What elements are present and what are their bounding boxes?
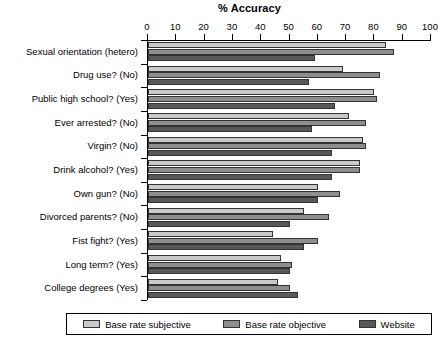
bar-0 — [148, 231, 273, 237]
chart-row: Drink alcohol? (Yes) — [0, 158, 439, 182]
bar-2 — [148, 244, 304, 250]
bar-1 — [148, 167, 360, 173]
bar-1 — [148, 191, 340, 197]
chart-row: Virgin? (No) — [0, 135, 439, 159]
bar-2 — [148, 221, 290, 227]
category-label: College degrees (Yes) — [0, 282, 138, 293]
accuracy-bar-chart: % Accuracy 0102030405060708090100 Sexual… — [0, 0, 439, 347]
x-tick-label: 80 — [368, 21, 379, 32]
chart-row: Long term? (Yes) — [0, 253, 439, 277]
bar-2 — [148, 150, 332, 156]
bar-1 — [148, 96, 377, 102]
bar-1 — [148, 238, 318, 244]
x-tick-label: 0 — [144, 21, 149, 32]
chart-legend: Base rate subjectiveBase rate objectiveW… — [66, 313, 432, 335]
legend-label: Base rate objective — [245, 319, 326, 330]
category-label: Divorced parents? (No) — [0, 211, 138, 222]
bar-2 — [148, 268, 290, 274]
x-tick-label: 60 — [312, 21, 323, 32]
bar-0 — [148, 113, 349, 119]
y-tick — [141, 300, 147, 301]
bar-0 — [148, 255, 281, 261]
bar-0 — [148, 66, 343, 72]
chart-row: Own gun? (No) — [0, 182, 439, 206]
chart-title: % Accuracy — [0, 2, 439, 14]
category-label: Sexual orientation (hetero) — [0, 46, 138, 57]
legend-swatch-icon — [359, 320, 376, 328]
bar-2 — [148, 103, 335, 109]
legend-item: Base rate subjective — [83, 319, 191, 330]
bar-0 — [148, 137, 363, 143]
bar-2 — [148, 79, 309, 85]
bar-2 — [148, 126, 312, 132]
bar-1 — [148, 120, 366, 126]
bar-1 — [148, 72, 380, 78]
chart-row: Public high school? (Yes) — [0, 87, 439, 111]
x-tick-label: 100 — [422, 21, 438, 32]
bar-0 — [148, 279, 278, 285]
x-tick-label: 50 — [283, 21, 294, 32]
bar-2 — [148, 55, 315, 61]
bar-2 — [148, 174, 332, 180]
bar-1 — [148, 214, 329, 220]
legend-label: Website — [381, 319, 415, 330]
legend-item: Base rate objective — [223, 319, 326, 330]
bar-1 — [148, 262, 292, 268]
chart-row: Ever arrested? (No) — [0, 111, 439, 135]
bar-1 — [148, 285, 290, 291]
bar-0 — [148, 160, 360, 166]
category-label: Fist fight? (Yes) — [0, 235, 138, 246]
category-label: Drink alcohol? (Yes) — [0, 164, 138, 175]
bar-0 — [148, 208, 304, 214]
bar-2 — [148, 292, 298, 298]
legend-swatch-icon — [223, 320, 240, 328]
chart-row: College degrees (Yes) — [0, 276, 439, 300]
legend-label: Base rate subjective — [105, 319, 191, 330]
bar-0 — [148, 42, 386, 48]
category-label: Public high school? (Yes) — [0, 93, 138, 104]
x-tick-label: 30 — [227, 21, 238, 32]
x-tick-label: 20 — [198, 21, 209, 32]
legend-swatch-icon — [83, 320, 100, 328]
chart-row: Sexual orientation (hetero) — [0, 40, 439, 64]
x-tick-label: 90 — [396, 21, 407, 32]
legend-item: Website — [359, 319, 415, 330]
bar-2 — [148, 197, 318, 203]
x-tick-label: 70 — [340, 21, 351, 32]
category-label: Long term? (Yes) — [0, 259, 138, 270]
bar-0 — [148, 184, 318, 190]
chart-row: Divorced parents? (No) — [0, 205, 439, 229]
category-label: Own gun? (No) — [0, 188, 138, 199]
bar-0 — [148, 89, 374, 95]
x-tick-label: 40 — [255, 21, 266, 32]
chart-row: Fist fight? (Yes) — [0, 229, 439, 253]
category-label: Virgin? (No) — [0, 140, 138, 151]
category-label: Ever arrested? (No) — [0, 117, 138, 128]
chart-row: Drug use? (No) — [0, 64, 439, 88]
bar-1 — [148, 143, 366, 149]
x-tick-label: 10 — [170, 21, 181, 32]
category-label: Drug use? (No) — [0, 69, 138, 80]
bar-1 — [148, 49, 394, 55]
